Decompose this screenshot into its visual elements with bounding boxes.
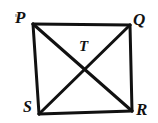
side-PQ <box>33 24 130 25</box>
side-SP <box>33 24 39 114</box>
vertex-label-q: Q <box>133 11 145 28</box>
vertex-label-t: T <box>79 39 88 54</box>
side-RS <box>39 111 132 114</box>
vertex-label-p: P <box>15 9 25 26</box>
side-QR <box>130 25 132 111</box>
vertex-label-s: S <box>23 99 32 115</box>
vertex-label-r: R <box>136 101 147 118</box>
scan-artifact-speck <box>15 14 17 17</box>
geometry-figure: P Q R S T <box>0 0 158 123</box>
